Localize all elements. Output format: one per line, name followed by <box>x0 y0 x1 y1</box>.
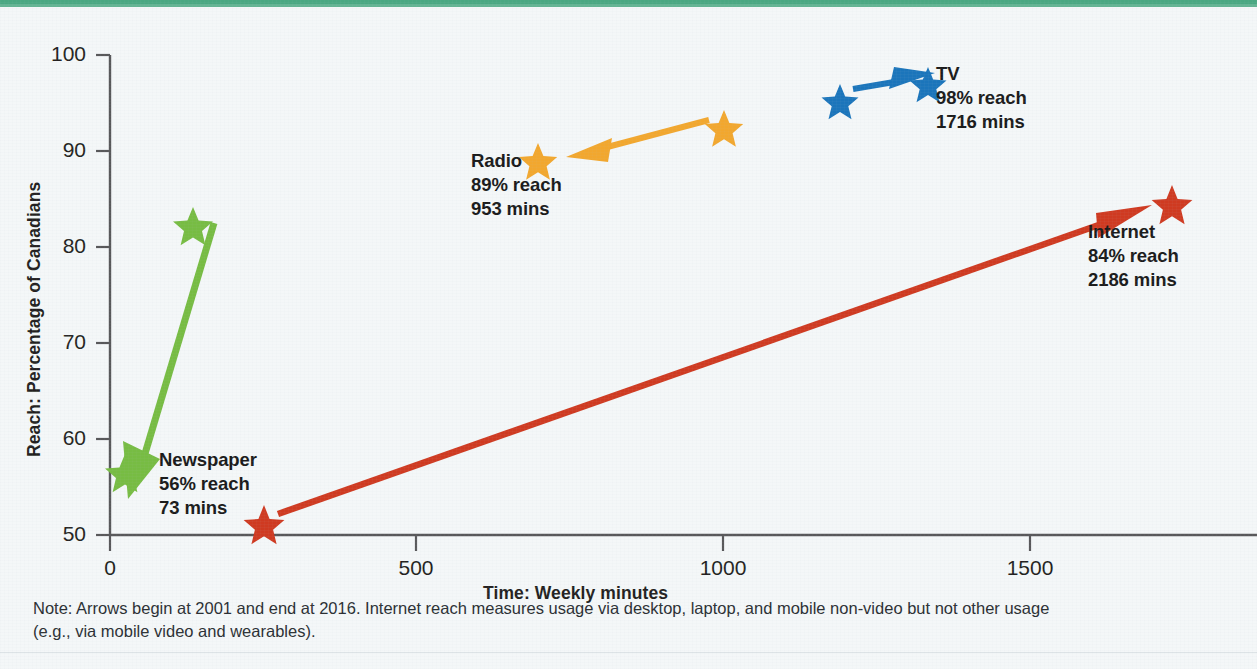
footnote-line-1: Note: Arrows begin at 2001 and end at 20… <box>33 597 1223 620</box>
radio-arrow-head <box>566 138 612 162</box>
x-tick-label-1500: 1500 <box>990 556 1070 580</box>
callout-newspaper: Newspaper 56% reach 73 mins <box>159 448 257 520</box>
y-tick-label-100: 100 <box>26 42 86 66</box>
callout-newspaper-reach: 56% reach <box>159 472 257 496</box>
radio-arrow-shaft <box>596 120 709 150</box>
callout-tv-reach: 98% reach <box>936 86 1027 110</box>
internet-star-2016 <box>1152 185 1193 224</box>
series-internet <box>244 185 1193 544</box>
series-tv <box>822 67 947 119</box>
callout-radio-name: Radio <box>471 149 562 173</box>
radio-star-2001 <box>705 110 743 147</box>
tv-star-2001 <box>822 84 859 119</box>
y-tick-label-90: 90 <box>26 138 86 162</box>
chart-footnote: Note: Arrows begin at 2001 and end at 20… <box>33 597 1223 644</box>
callout-tv-mins: 1716 mins <box>936 110 1027 134</box>
callout-radio: Radio 89% reach 953 mins <box>471 149 562 221</box>
chart-figure: 100 90 80 70 60 50 0 500 1000 1500 2000 … <box>0 7 1257 669</box>
callout-tv: TV 98% reach 1716 mins <box>936 62 1027 134</box>
callout-internet: Internet 84% reach 2186 mins <box>1088 220 1179 292</box>
x-tick-label-0: 0 <box>70 556 150 580</box>
y-tick-label-50: 50 <box>26 522 86 546</box>
callout-radio-reach: 89% reach <box>471 173 562 197</box>
callout-tv-name: TV <box>936 62 1027 86</box>
callout-newspaper-name: Newspaper <box>159 448 257 472</box>
callout-radio-mins: 953 mins <box>471 197 562 221</box>
footer-divider <box>0 652 1257 653</box>
y-axis-title: Reach: Percentage of Canadians <box>24 182 45 457</box>
x-tick-label-500: 500 <box>376 556 456 580</box>
x-tick-label-1000: 1000 <box>683 556 763 580</box>
callout-internet-reach: 84% reach <box>1088 244 1179 268</box>
callout-internet-name: Internet <box>1088 220 1179 244</box>
top-accent-bar <box>0 0 1257 7</box>
internet-arrow-shaft <box>278 221 1110 514</box>
callout-internet-mins: 2186 mins <box>1088 268 1179 292</box>
footnote-line-2: (e.g., via mobile video and wearables). <box>33 620 1223 643</box>
newspaper-arrow-shaft <box>144 223 214 457</box>
callout-newspaper-mins: 73 mins <box>159 496 257 520</box>
